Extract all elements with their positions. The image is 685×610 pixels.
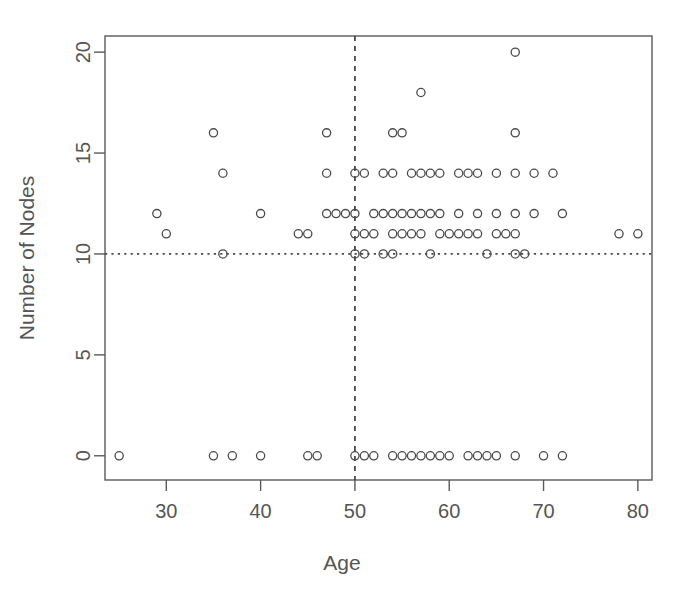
data-point (379, 210, 387, 218)
data-point (464, 452, 472, 460)
data-point (407, 169, 415, 177)
data-point (379, 169, 387, 177)
data-point (558, 210, 566, 218)
data-point (370, 230, 378, 238)
data-point (323, 129, 331, 137)
data-point (464, 169, 472, 177)
data-point (115, 452, 123, 460)
data-point (360, 169, 368, 177)
data-point (492, 230, 500, 238)
data-point (313, 452, 321, 460)
data-point (417, 169, 425, 177)
data-point (558, 452, 566, 460)
data-point (389, 250, 397, 258)
data-point (417, 210, 425, 218)
data-point (511, 210, 519, 218)
data-point (398, 129, 406, 137)
data-point (426, 169, 434, 177)
data-point (473, 452, 481, 460)
x-tick-label-50: 50 (344, 500, 366, 522)
data-point (492, 169, 500, 177)
data-point (417, 88, 425, 96)
y-tick-label-20: 20 (72, 41, 94, 63)
data-point (304, 230, 312, 238)
data-point (511, 230, 519, 238)
y-axis-title: Number of Nodes (15, 176, 38, 341)
data-point (304, 452, 312, 460)
data-point (455, 169, 463, 177)
y-tick-label-15: 15 (72, 142, 94, 164)
plot-canvas: 304050607080 05101520 Age Number of Node… (0, 0, 685, 610)
data-point (323, 210, 331, 218)
data-points-group (115, 48, 642, 460)
data-point (502, 230, 510, 238)
data-point (398, 210, 406, 218)
x-tick-label-80: 80 (627, 500, 649, 522)
data-point (219, 250, 227, 258)
data-point (436, 210, 444, 218)
y-tick-label-10: 10 (72, 243, 94, 265)
data-point (436, 452, 444, 460)
data-point (389, 452, 397, 460)
x-tick-label-30: 30 (155, 500, 177, 522)
data-point (615, 230, 623, 238)
data-point (455, 230, 463, 238)
data-point (492, 210, 500, 218)
data-point (436, 169, 444, 177)
data-point (492, 452, 500, 460)
data-point (426, 452, 434, 460)
data-point (294, 230, 302, 238)
data-point (511, 129, 519, 137)
data-point (257, 210, 265, 218)
x-axis: 304050607080 (155, 480, 649, 522)
data-point (473, 230, 481, 238)
data-point (483, 452, 491, 460)
data-point (473, 210, 481, 218)
y-axis: 05101520 (72, 41, 105, 461)
y-tick-label-5: 5 (72, 349, 94, 360)
data-point (530, 210, 538, 218)
data-point (228, 452, 236, 460)
data-point (445, 452, 453, 460)
data-point (426, 210, 434, 218)
reference-lines-group (105, 36, 652, 480)
data-point (323, 169, 331, 177)
data-point (370, 210, 378, 218)
data-point (398, 230, 406, 238)
data-point (389, 169, 397, 177)
data-point (464, 230, 472, 238)
data-point (539, 452, 547, 460)
scatter-plot-figure: 304050607080 05101520 Age Number of Node… (0, 0, 685, 610)
data-point (209, 452, 217, 460)
data-point (360, 230, 368, 238)
x-tick-label-60: 60 (438, 500, 460, 522)
data-point (436, 230, 444, 238)
plot-frame (105, 36, 652, 480)
data-point (417, 230, 425, 238)
data-point (389, 210, 397, 218)
data-point (445, 230, 453, 238)
data-point (407, 210, 415, 218)
data-point (549, 169, 557, 177)
x-tick-label-70: 70 (532, 500, 554, 522)
data-point (407, 230, 415, 238)
data-point (219, 169, 227, 177)
data-point (257, 452, 265, 460)
data-point (360, 452, 368, 460)
data-point (341, 210, 349, 218)
data-point (153, 210, 161, 218)
data-point (634, 230, 642, 238)
data-point (407, 452, 415, 460)
data-point (511, 169, 519, 177)
data-point (370, 452, 378, 460)
data-point (389, 129, 397, 137)
data-point (332, 210, 340, 218)
data-point (398, 452, 406, 460)
x-tick-label-40: 40 (249, 500, 271, 522)
data-point (389, 230, 397, 238)
y-tick-label-0: 0 (72, 450, 94, 461)
x-axis-title: Age (323, 551, 360, 574)
data-point (511, 452, 519, 460)
data-point (455, 210, 463, 218)
data-point (511, 48, 519, 56)
